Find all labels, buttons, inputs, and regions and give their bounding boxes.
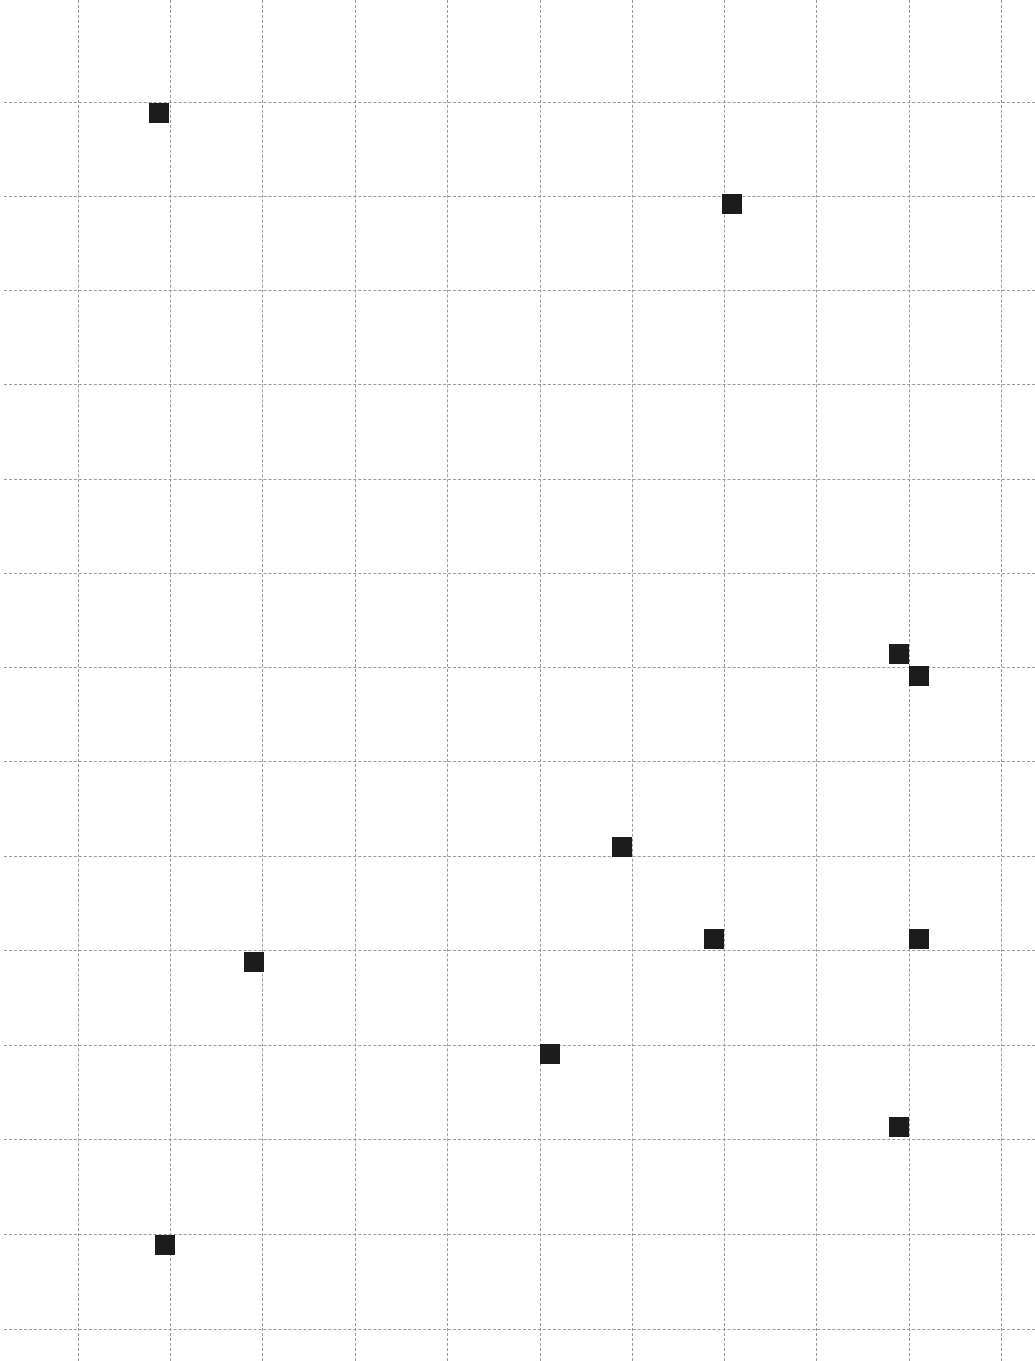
grid-column-line <box>816 0 817 1361</box>
square-marker[interactable] <box>909 929 929 949</box>
grid-column-line <box>170 0 171 1361</box>
grid-row-line <box>4 1139 1035 1140</box>
grid-column-line <box>540 0 541 1361</box>
grid-row-line <box>4 761 1035 762</box>
grid-row-line <box>4 1045 1035 1046</box>
grid-column-line <box>632 0 633 1361</box>
square-marker[interactable] <box>540 1044 560 1064</box>
square-marker[interactable] <box>149 103 169 123</box>
grid-row-line <box>4 196 1035 197</box>
grid-row-line <box>4 384 1035 385</box>
grid-row-line <box>4 479 1035 480</box>
grid-column-line <box>355 0 356 1361</box>
grid-column-line <box>1001 0 1002 1361</box>
square-marker[interactable] <box>909 666 929 686</box>
grid-row-line <box>4 290 1035 291</box>
square-marker[interactable] <box>704 929 724 949</box>
grid-row-line <box>4 573 1035 574</box>
square-marker[interactable] <box>612 837 632 857</box>
square-marker[interactable] <box>244 952 264 972</box>
grid-column-line <box>78 0 79 1361</box>
square-marker[interactable] <box>889 644 909 664</box>
grid-row-line <box>4 856 1035 857</box>
grid-row-line <box>4 950 1035 951</box>
grid-board[interactable] <box>0 0 1035 1361</box>
square-marker[interactable] <box>155 1235 175 1255</box>
grid-column-line <box>447 0 448 1361</box>
grid-row-line <box>4 667 1035 668</box>
square-marker[interactable] <box>889 1117 909 1137</box>
grid-row-line <box>4 1329 1035 1330</box>
grid-column-line <box>262 0 263 1361</box>
square-marker[interactable] <box>722 194 742 214</box>
